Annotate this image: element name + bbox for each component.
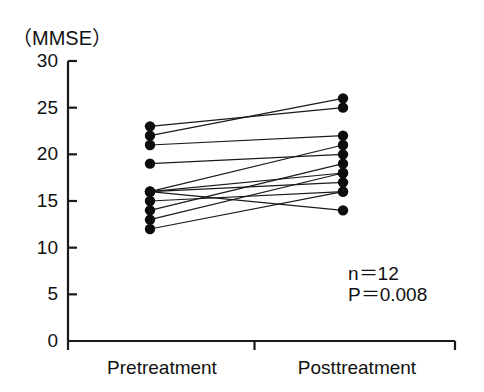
x-tick-label-posttreatment: Posttreatment xyxy=(262,357,452,379)
data-point-marker xyxy=(338,186,348,196)
mmse-paired-line-chart: （MMSE） 30 25 20 15 10 5 0 Pretreatment P… xyxy=(0,0,484,392)
data-point-marker xyxy=(145,224,155,234)
data-point-marker xyxy=(338,102,348,112)
data-point-marker xyxy=(145,140,155,150)
data-point-marker xyxy=(145,121,155,131)
data-point-marker xyxy=(338,205,348,215)
data-point-marker xyxy=(145,158,155,168)
data-point-marker xyxy=(145,196,155,206)
x-tick-label-pretreatment: Pretreatment xyxy=(72,357,252,379)
series-line xyxy=(150,192,343,229)
series-line xyxy=(150,154,343,163)
data-point-marker xyxy=(145,214,155,224)
data-point-marker xyxy=(338,149,348,159)
series-line xyxy=(150,98,343,135)
series-line xyxy=(150,164,343,211)
data-point-marker xyxy=(338,177,348,187)
data-point-marker xyxy=(145,205,155,215)
plot-area xyxy=(0,0,484,392)
series-line xyxy=(150,145,343,192)
annotation-p-value: P＝0.008 xyxy=(348,279,427,306)
series-lines-group xyxy=(150,98,343,229)
data-point-marker xyxy=(338,140,348,150)
data-point-marker xyxy=(145,186,155,196)
data-point-marker xyxy=(338,168,348,178)
axes-group xyxy=(68,61,455,350)
data-point-marker xyxy=(338,93,348,103)
series-line xyxy=(150,192,343,211)
data-point-marker xyxy=(338,158,348,168)
series-line xyxy=(150,136,343,145)
data-point-marker xyxy=(145,130,155,140)
data-point-marker xyxy=(338,130,348,140)
series-line xyxy=(150,173,343,220)
series-line xyxy=(150,173,343,192)
